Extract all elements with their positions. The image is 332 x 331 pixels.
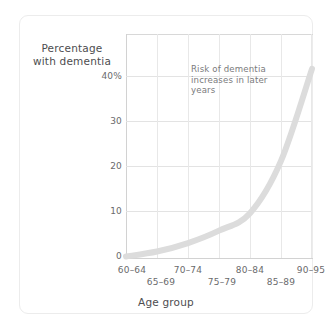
chart-annotation: Risk of dementia increases in later year…: [191, 64, 277, 96]
x-axis-line: [126, 258, 313, 259]
x-tick-label-70-74: 70–74: [166, 265, 210, 275]
dementia-risk-chart-figure: Percentage with dementia 40% 30 20 10 0 …: [0, 0, 332, 331]
chart-annotation-line-1: Risk of dementia: [191, 64, 277, 75]
y-axis-title-line-2: with dementia: [22, 55, 122, 68]
x-tick-label-80-84: 80–84: [228, 265, 272, 275]
x-tick-label-90-95: 90–95: [289, 265, 332, 275]
y-axis-title: Percentage with dementia: [22, 42, 122, 68]
x-tick-label-85-89: 85–89: [259, 277, 303, 287]
chart-annotation-line-3: years: [191, 85, 277, 96]
chart-annotation-line-2: increases in later: [191, 75, 277, 86]
x-axis-title: Age group: [0, 296, 332, 308]
y-tick-label-0: 0: [88, 251, 122, 261]
x-tick-label-65-69: 65–69: [139, 277, 183, 287]
x-tick-label-60-64: 60–64: [110, 265, 154, 275]
y-tick-label-40: 40%: [88, 71, 122, 81]
y-tick-label-20: 20: [88, 161, 122, 171]
x-tick-label-75-79: 75–79: [200, 277, 244, 287]
y-tick-label-30: 30: [88, 116, 122, 126]
y-axis-title-line-1: Percentage: [22, 42, 122, 55]
y-tick-label-10: 10: [88, 206, 122, 216]
